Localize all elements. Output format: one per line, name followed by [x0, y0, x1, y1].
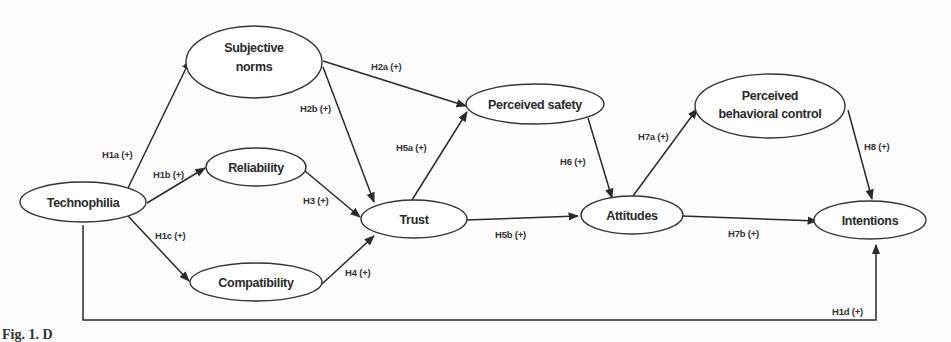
- edge-label-h8: H8 (+): [864, 141, 889, 152]
- edge-label-h7b: H7b (+): [728, 228, 759, 239]
- node-attitudes: Attitudes: [581, 196, 683, 234]
- node-trust: Trust: [361, 200, 467, 238]
- figure-caption: Fig. 1. D: [2, 327, 53, 342]
- node-compatibility: Compatibility: [190, 263, 322, 301]
- node-label: behavioral control: [719, 107, 822, 121]
- research-model-diagram: Subjective norms Technophilia Reliabilit…: [0, 0, 951, 342]
- edge-label-h1c: H1c (+): [155, 230, 186, 241]
- node-reliability: Reliability: [206, 148, 306, 186]
- node-label: Subjective: [224, 41, 284, 55]
- edge-label-h2b: H2b (+): [300, 103, 331, 114]
- edge-label-h4: H4 (+): [345, 267, 370, 278]
- node-label: Intentions: [842, 214, 899, 228]
- node-subjective-norms: Subjective norms: [186, 26, 322, 98]
- node-perceived-behavioral-control: Perceived behavioral control: [695, 74, 845, 138]
- node-label: Technophilia: [47, 196, 121, 210]
- node-label: Trust: [399, 213, 429, 227]
- edge-label-h2a: H2a (+): [371, 61, 402, 72]
- edge-label-h5a: H5a (+): [396, 142, 427, 153]
- edge-label-h1d: H1d (+): [832, 306, 863, 317]
- edge-label-h7a: H7a (+): [638, 131, 669, 142]
- node-label: Perceived: [742, 89, 798, 103]
- node-perceived-safety: Perceived safety: [466, 84, 604, 124]
- edge-label-h6: H6 (+): [560, 156, 585, 167]
- node-technophilia: Technophilia: [20, 182, 146, 222]
- edge-label-h5b: H5b (+): [495, 229, 526, 240]
- node-label: Attitudes: [606, 209, 658, 223]
- edge-label-h1a: H1a (+): [102, 149, 133, 160]
- node-label: Reliability: [228, 161, 284, 175]
- bleed-through-text: [0, 0, 951, 342]
- node-label: Compatibility: [218, 276, 294, 290]
- node-label: norms: [236, 60, 273, 74]
- edge-label-h1b: H1b (+): [153, 169, 184, 180]
- node-label: Perceived safety: [488, 98, 582, 112]
- edge-label-h3: H3 (+): [303, 195, 328, 206]
- node-intentions: Intentions: [814, 201, 926, 239]
